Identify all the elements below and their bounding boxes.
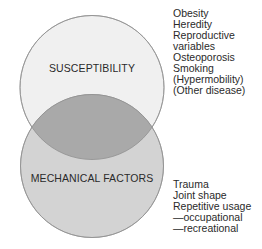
factor-item: —recreational: [173, 223, 251, 234]
mechanical-factor-list: Trauma Joint shape Repetitive usage —occ…: [173, 179, 251, 234]
factor-item: (Other disease): [173, 85, 245, 96]
mechanical-factors-label: MECHANICAL FACTORS: [22, 172, 162, 184]
susceptibility-factor-list: Obesity Heredity Reproductive variables …: [173, 8, 245, 96]
susceptibility-label: SUSCEPTIBILITY: [42, 62, 142, 74]
